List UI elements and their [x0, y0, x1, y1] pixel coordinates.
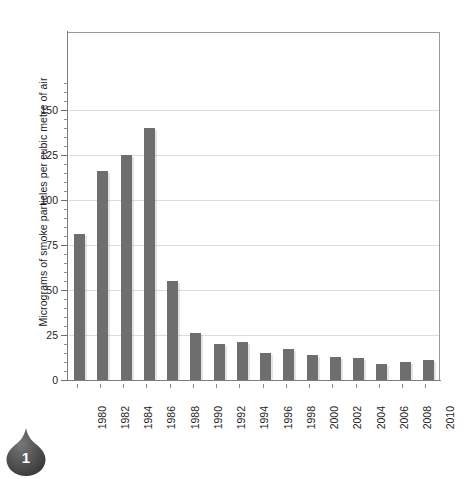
- badge-number: 1: [4, 449, 48, 466]
- bar: [353, 358, 364, 380]
- y-tick-minor: [64, 182, 68, 183]
- y-tick-minor: [64, 317, 68, 318]
- bar: [423, 360, 434, 380]
- x-tick-mark: [100, 384, 101, 388]
- y-tick-label: 25: [18, 329, 58, 341]
- x-tick-mark: [170, 384, 171, 388]
- x-tick-mark: [146, 384, 147, 388]
- y-tick-minor: [64, 209, 68, 210]
- y-tick-minor: [64, 353, 68, 354]
- x-tick-label: 2010: [444, 406, 456, 450]
- gridline: [69, 110, 439, 111]
- x-tick: 1988: [165, 384, 181, 430]
- bar: [400, 362, 411, 380]
- bar: [260, 353, 271, 380]
- y-tick-major: [61, 245, 68, 246]
- y-tick-major: [61, 155, 68, 156]
- bar: [283, 349, 294, 380]
- x-tick-mark: [379, 384, 380, 388]
- y-tick-major: [61, 335, 68, 336]
- x-tick-mark: [239, 384, 240, 388]
- y-tick-minor: [64, 128, 68, 129]
- y-tick-minor: [64, 146, 68, 147]
- bar: [307, 355, 318, 380]
- y-tick-minor: [64, 254, 68, 255]
- y-tick-minor: [64, 326, 68, 327]
- y-tick-label: 125: [18, 149, 58, 161]
- y-tick-minor: [64, 344, 68, 345]
- y-tick-major: [61, 380, 68, 381]
- x-tick: 2008: [397, 384, 413, 430]
- x-tick: 2010: [420, 384, 436, 430]
- x-tick-mark: [123, 384, 124, 388]
- x-tick: 1982: [95, 384, 111, 430]
- x-tick: 1984: [118, 384, 134, 430]
- y-tick-minor: [64, 362, 68, 363]
- bar: [121, 155, 132, 380]
- y-tick-minor: [64, 137, 68, 138]
- y-tick-minor: [64, 281, 68, 282]
- y-tick-minor: [64, 218, 68, 219]
- y-tick-minor: [64, 191, 68, 192]
- x-tick-mark: [263, 384, 264, 388]
- y-tick-minor: [64, 299, 68, 300]
- y-tick-label: 50: [18, 284, 58, 296]
- x-tick-mark: [309, 384, 310, 388]
- bar: [190, 333, 201, 380]
- bar: [237, 342, 248, 380]
- y-tick-minor: [64, 101, 68, 102]
- x-tick: 1986: [141, 384, 157, 430]
- y-tick-minor: [64, 164, 68, 165]
- x-tick: 2002: [327, 384, 343, 430]
- y-tick-minor: [64, 173, 68, 174]
- x-tick: 1980: [72, 384, 88, 430]
- x-tick-mark: [425, 384, 426, 388]
- y-tick-minor: [64, 227, 68, 228]
- y-tick-minor: [64, 92, 68, 93]
- x-tick-mark: [216, 384, 217, 388]
- y-tick-major: [61, 110, 68, 111]
- x-axis-line: [67, 380, 441, 381]
- x-tick: 2000: [304, 384, 320, 430]
- x-tick: 1992: [211, 384, 227, 430]
- x-tick-mark: [402, 384, 403, 388]
- x-tick: 1998: [281, 384, 297, 430]
- y-tick-label: 150: [18, 104, 58, 116]
- y-tick-minor: [64, 308, 68, 309]
- x-tick: 1990: [188, 384, 204, 430]
- y-tick-label: 75: [18, 239, 58, 251]
- x-tick-mark: [193, 384, 194, 388]
- y-tick-label: 0: [18, 374, 58, 386]
- y-tick-minor: [64, 83, 68, 84]
- y-tick-minor: [64, 119, 68, 120]
- y-tick-minor: [64, 236, 68, 237]
- bar: [144, 128, 155, 380]
- bar: [330, 357, 341, 380]
- x-tick: 1994: [234, 384, 250, 430]
- x-tick: 2004: [351, 384, 367, 430]
- y-tick-major: [61, 290, 68, 291]
- y-tick-minor: [64, 371, 68, 372]
- map-pin-marker-icon: 1: [4, 427, 48, 477]
- bar: [214, 344, 225, 380]
- x-tick-mark: [332, 384, 333, 388]
- x-tick-mark: [286, 384, 287, 388]
- bar: [376, 364, 387, 380]
- bar: [74, 234, 85, 380]
- x-tick-mark: [356, 384, 357, 388]
- chart-figure: Micrograms of smoke particles per cubic …: [0, 0, 465, 479]
- x-tick-mark: [77, 384, 78, 388]
- y-tick-minor: [64, 263, 68, 264]
- y-tick-major: [61, 200, 68, 201]
- x-tick: 1996: [258, 384, 274, 430]
- bar: [167, 281, 178, 380]
- y-tick-label: 100: [18, 194, 58, 206]
- bar: [97, 171, 108, 380]
- y-tick-minor: [64, 272, 68, 273]
- x-tick: 2006: [374, 384, 390, 430]
